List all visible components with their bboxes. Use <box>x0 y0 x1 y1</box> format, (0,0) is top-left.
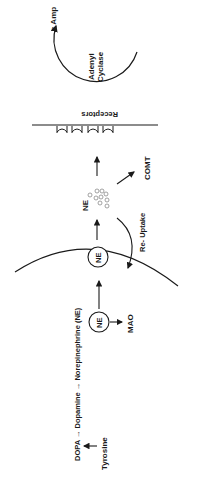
receptor-sites <box>57 126 113 133</box>
ne-vesicle-storage-label: NE <box>95 318 104 328</box>
re-uptake-arrow <box>117 218 132 268</box>
cyclase-label: Cyclase <box>96 51 105 82</box>
mao-label: MAO <box>126 314 135 333</box>
receptor-cup <box>57 126 67 133</box>
neurotransmission-diagram: c Amp Adenyl Cyclase Receptors COMT NE R… <box>0 0 198 482</box>
receptor-cup <box>88 126 98 133</box>
synthesis-pathway-label: DOPA → Dopamine → Norepinephrine (NE) <box>73 307 82 461</box>
ne-vesicle-membrane-label: NE <box>94 253 103 263</box>
c-amp-label: c Amp <box>49 7 58 31</box>
receptor-cup <box>103 126 113 133</box>
re-uptake-label: Re- Uptake <box>138 213 147 252</box>
ne-released-label: NE <box>81 199 90 211</box>
comt-arrow <box>117 172 134 184</box>
adenyl-label: Adenyl <box>87 53 96 80</box>
receptors-label: Receptors <box>81 110 118 119</box>
receptor-cup <box>72 126 82 133</box>
ne-molecules <box>88 189 109 208</box>
tyrosine-label: Tyrosine <box>100 437 109 470</box>
comt-label: COMT <box>143 156 152 180</box>
